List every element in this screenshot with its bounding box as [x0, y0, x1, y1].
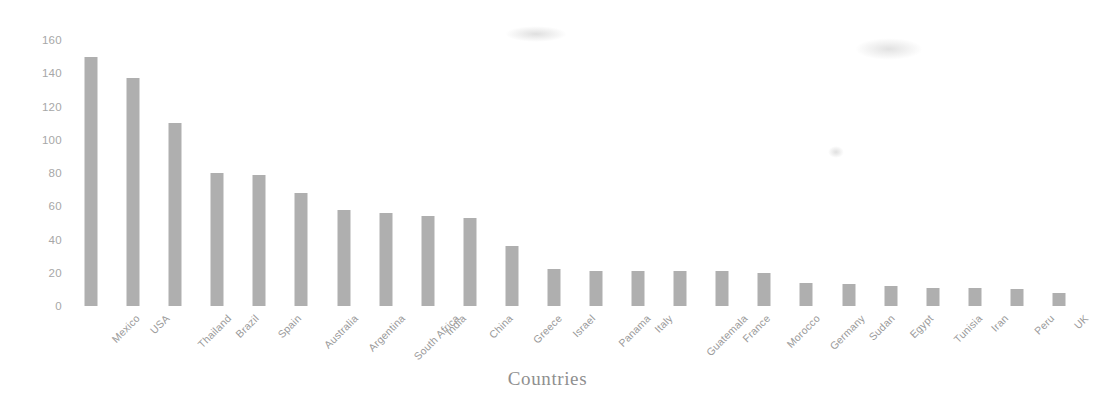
bar[interactable]: [421, 216, 434, 306]
bar-slot: [407, 40, 449, 306]
y-axis-tick-label: 80: [0, 167, 62, 179]
bar[interactable]: [85, 57, 98, 306]
x-axis-tick-label: Morocco: [785, 312, 823, 350]
bar-slot: [954, 40, 996, 306]
x-axis-tick-label: USA: [148, 312, 172, 336]
bar-slot: [323, 40, 365, 306]
x-axis-tick-label: Panama: [616, 312, 653, 349]
y-axis-tick-label: 120: [0, 101, 62, 113]
y-axis-tick-label: 160: [0, 34, 62, 46]
x-axis-tick-label: Iran: [988, 312, 1010, 334]
y-axis-tick-label: 140: [0, 67, 62, 79]
x-axis-tick-label: Germany: [828, 312, 868, 352]
bar[interactable]: [463, 218, 476, 306]
bar-slot: [575, 40, 617, 306]
bar-slot: [70, 40, 112, 306]
x-axis-tick-label: Peru: [1032, 312, 1057, 337]
bar-slot: [449, 40, 491, 306]
bar-slot: [701, 40, 743, 306]
bar[interactable]: [295, 193, 308, 306]
bar-slot: [659, 40, 701, 306]
y-axis-tick-label: 0: [0, 300, 62, 312]
bar-slot: [196, 40, 238, 306]
bar-slot: [154, 40, 196, 306]
bar-slot: [280, 40, 322, 306]
bar[interactable]: [1010, 289, 1023, 306]
x-axis-tick-label: UK: [1071, 312, 1090, 331]
x-axis-tick-label: Mexico: [109, 312, 142, 345]
bar-slot: [785, 40, 827, 306]
x-axis-tick-label: Thailand: [195, 312, 233, 350]
bar[interactable]: [758, 273, 771, 306]
bar[interactable]: [632, 271, 645, 306]
bar[interactable]: [127, 78, 140, 306]
x-axis-tick-label: Argentina: [365, 312, 407, 354]
bar-slot: [870, 40, 912, 306]
bar-slot: [365, 40, 407, 306]
bar-slot: [491, 40, 533, 306]
bar[interactable]: [1052, 293, 1065, 306]
y-axis-tick-label: 60: [0, 200, 62, 212]
y-axis-tick-label: 100: [0, 134, 62, 146]
bar[interactable]: [379, 213, 392, 306]
bar[interactable]: [800, 283, 813, 306]
y-axis-tick-label: 40: [0, 234, 62, 246]
bar[interactable]: [590, 271, 603, 306]
bar[interactable]: [884, 286, 897, 306]
x-axis-tick-label: Spain: [276, 312, 304, 340]
x-axis-tick-label: Brazil: [233, 312, 261, 340]
x-axis-tick-label: Sudan: [866, 312, 897, 343]
x-axis-tick-label: Australia: [322, 312, 361, 351]
bar[interactable]: [674, 271, 687, 306]
y-axis-tick-label: 20: [0, 267, 62, 279]
x-axis-tick-label: Egypt: [907, 312, 935, 340]
x-axis-title: Countries: [0, 368, 1095, 390]
bar-series: [70, 40, 1080, 306]
bar-slot: [996, 40, 1038, 306]
bar-slot: [1038, 40, 1080, 306]
bar[interactable]: [505, 246, 518, 306]
bar[interactable]: [253, 175, 266, 306]
bar[interactable]: [968, 288, 981, 306]
bar[interactable]: [211, 173, 224, 306]
x-axis-tick-label: Israel: [570, 312, 597, 339]
bar-chart: 020406080100120140160 MexicoUSAThailandB…: [0, 0, 1095, 418]
x-axis-tick-labels: MexicoUSAThailandBrazilSpainAustraliaArg…: [70, 306, 1080, 376]
bar-slot: [828, 40, 870, 306]
x-axis-tick-label: Italy: [652, 312, 675, 335]
y-axis: 020406080100120140160: [0, 40, 62, 306]
plot-area: [70, 40, 1080, 306]
bar[interactable]: [337, 210, 350, 306]
bar[interactable]: [169, 123, 182, 306]
bar[interactable]: [842, 284, 855, 306]
bar-slot: [112, 40, 154, 306]
bar-slot: [238, 40, 280, 306]
bar[interactable]: [716, 271, 729, 306]
bar[interactable]: [926, 288, 939, 306]
x-axis-tick-label: Greece: [530, 312, 564, 346]
x-axis-tick-label: Tunisia: [951, 312, 984, 345]
bar-slot: [533, 40, 575, 306]
bar-slot: [617, 40, 659, 306]
bar-slot: [912, 40, 954, 306]
bar-slot: [743, 40, 785, 306]
x-axis-tick-label: China: [486, 312, 515, 341]
bar[interactable]: [547, 269, 560, 306]
